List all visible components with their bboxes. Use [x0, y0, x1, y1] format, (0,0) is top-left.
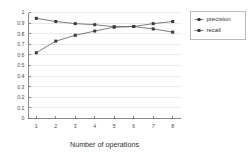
- y-tick-label: 0.5: [17, 62, 24, 68]
- series-precision: [35, 17, 174, 34]
- data-point-precision-7: [152, 27, 155, 30]
- x-tick-label: 3: [74, 123, 77, 129]
- data-point-recall-2: [54, 40, 57, 43]
- data-point-recall-4: [93, 30, 96, 33]
- y-tick-label: 0.6: [17, 52, 24, 58]
- y-tick-label: 0: [22, 115, 25, 121]
- x-tick-label: 7: [152, 123, 155, 129]
- x-tick-label: 6: [132, 123, 135, 129]
- legend-label-recall: recall: [207, 27, 221, 33]
- x-tick-label: 5: [113, 123, 116, 129]
- data-point-precision-3: [74, 22, 77, 25]
- y-axis-tick-labels: 00.10.20.30.40.50.60.70.80.91: [17, 9, 24, 121]
- legend-marker-recall: [198, 29, 201, 32]
- data-point-precision-8: [171, 31, 174, 34]
- series-line-recall: [36, 22, 172, 53]
- chart-legend: precisionrecall: [191, 12, 246, 40]
- x-tick-label: 2: [54, 123, 57, 129]
- x-axis-tick-labels: 12345678: [35, 123, 174, 129]
- y-tick-label: 1: [22, 9, 25, 15]
- x-tick-label: 8: [171, 123, 174, 129]
- data-point-recall-1: [35, 51, 38, 54]
- data-point-recall-3: [74, 34, 77, 37]
- data-point-precision-2: [54, 20, 57, 23]
- data-point-precision-1: [35, 17, 38, 20]
- legend-label-precision: precision: [207, 16, 231, 22]
- y-tick-label: 0.1: [17, 105, 24, 111]
- grid-lines: [29, 13, 181, 108]
- line-chart: 00.10.20.30.40.50.60.70.80.91 12345678 p…: [0, 0, 248, 152]
- data-point-recall-7: [152, 22, 155, 25]
- legend-marker-precision: [198, 18, 201, 21]
- y-tick-label: 0.7: [17, 41, 24, 47]
- x-axis-title: Number of operations: [70, 140, 140, 149]
- y-tick-label: 0.8: [17, 31, 24, 37]
- y-tick-label: 0.3: [17, 84, 24, 90]
- data-point-recall-6: [132, 25, 135, 28]
- chart-canvas: 00.10.20.30.40.50.60.70.80.91 12345678 p…: [0, 0, 248, 152]
- y-tick-label: 0.9: [17, 20, 24, 26]
- data-point-precision-4: [93, 23, 96, 26]
- x-tick-label: 4: [93, 123, 96, 129]
- x-tick-label: 1: [35, 123, 38, 129]
- y-tick-label: 0.2: [17, 94, 24, 100]
- y-tick-label: 0.4: [17, 73, 24, 79]
- series-recall: [35, 20, 174, 54]
- data-point-recall-8: [171, 20, 174, 23]
- data-point-recall-5: [113, 26, 116, 29]
